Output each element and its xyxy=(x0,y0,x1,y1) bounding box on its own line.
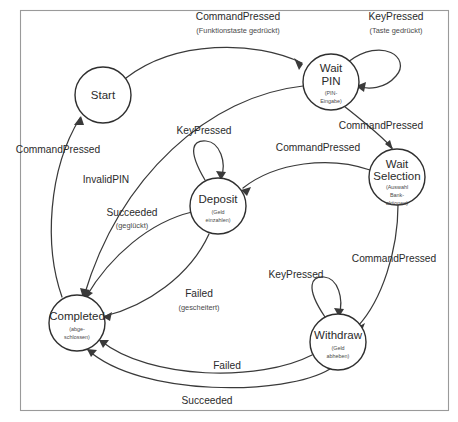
state-sub-deposit-line1: (Geld xyxy=(211,209,224,215)
edge-label-deposit-to-completed-failed: Failed xyxy=(185,288,213,299)
state-sub-withdraw-line2: abheben) xyxy=(327,353,350,359)
edge-label-wait-selection-to-deposit: CommandPressed xyxy=(276,142,361,153)
edge-label-wait-selection-to-withdraw: CommandPressed xyxy=(352,253,437,264)
state-circle-withdraw[interactable] xyxy=(310,314,366,370)
edge-label-withdraw-to-completed-failed: Failed xyxy=(213,360,241,371)
edge-label-wait-pin-to-completed: InvalidPIN xyxy=(83,174,129,185)
edge-sub-deposit-to-completed-succeeded: (geglückt) xyxy=(116,221,148,230)
state-sub-deposit-line2: einzahlen) xyxy=(206,217,231,223)
state-sub-completed-line1: (abge- xyxy=(69,326,85,332)
state-label-withdraw: Withdraw xyxy=(314,329,363,341)
edge-sub-wait-pin-self-loop: (Taste gedrückt) xyxy=(370,26,423,35)
edge-sub-start-to-wait-pin: (Funktionstaste gedrückt) xyxy=(196,26,279,35)
state-circle-completed[interactable] xyxy=(49,295,105,351)
state-node-start[interactable]: Start xyxy=(75,67,131,123)
state-machine-diagram: Start Wait PIN (PIN- Eingabe) Wait Selec… xyxy=(0,0,458,422)
state-sub-wait-selection-line1: (Auswahl xyxy=(386,184,408,190)
diagram-canvas: Start Wait PIN (PIN- Eingabe) Wait Selec… xyxy=(0,0,458,422)
state-label-wait-selection-line2: Selection xyxy=(373,170,420,182)
state-label-start: Start xyxy=(91,89,116,101)
edge-label-withdraw-self-loop: KeyPressed xyxy=(269,269,324,280)
state-label-wait-pin-line2: PIN xyxy=(321,75,340,87)
edge-label-completed-to-start: CommandPressed xyxy=(16,144,101,155)
state-circle-deposit[interactable] xyxy=(190,178,246,234)
state-label-wait-selection-line1: Wait xyxy=(386,158,409,170)
edge-label-start-to-wait-pin: CommandPressed xyxy=(196,11,281,22)
edge-label-deposit-self-loop: KeyPressed xyxy=(177,125,232,136)
state-node-wait-pin[interactable]: Wait PIN (PIN- Eingabe) xyxy=(303,54,359,110)
state-node-wait-selection[interactable]: Wait Selection (Auswahl Bank- aktionen) xyxy=(369,149,425,206)
state-node-completed[interactable]: Completed (abge- schlossen) xyxy=(49,295,105,351)
state-sub-wait-pin-line2: Eingabe) xyxy=(320,98,342,104)
state-node-deposit[interactable]: Deposit (Geld einzahlen) xyxy=(190,178,246,234)
state-sub-wait-selection-line2: Bank- xyxy=(390,192,404,198)
state-sub-completed-line2: schlossen) xyxy=(64,334,90,340)
state-label-deposit: Deposit xyxy=(199,193,239,205)
state-label-completed: Completed xyxy=(49,310,105,322)
edge-sub-deposit-to-completed-failed: (gescheitert) xyxy=(178,303,219,312)
state-node-withdraw[interactable]: Withdraw (Geld abheben) xyxy=(310,314,366,370)
edge-label-wait-pin-to-wait-selection: CommandPressed xyxy=(339,120,424,131)
state-sub-wait-selection-line3: aktionen) xyxy=(386,200,408,206)
state-label-wait-pin-line1: Wait xyxy=(320,62,343,74)
state-sub-wait-pin-line1: (PIN- xyxy=(325,90,338,96)
edge-label-deposit-to-completed-succeeded: Succeeded xyxy=(107,207,158,218)
edge-label-wait-pin-self-loop: KeyPressed xyxy=(369,11,424,22)
state-sub-withdraw-line1: (Geld xyxy=(331,345,344,351)
edge-label-withdraw-to-completed-succeeded: Succeeded xyxy=(182,395,233,406)
